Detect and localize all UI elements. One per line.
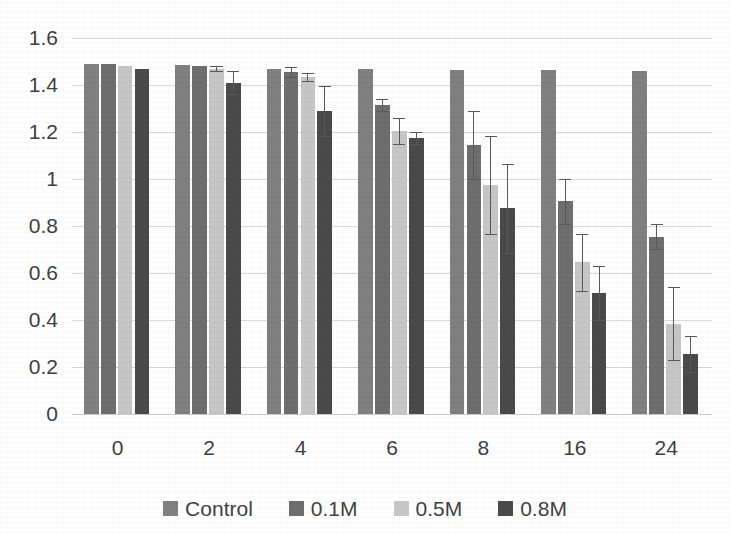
bar-chart: 00.20.40.60.811.21.41.6 024681624 Contro… <box>0 0 730 533</box>
bar <box>558 201 573 414</box>
error-bar <box>409 132 424 144</box>
legend-label: 0.8M <box>520 498 567 519</box>
y-axis-tick-label: 1.6 <box>29 27 58 48</box>
axis-baseline <box>72 414 712 415</box>
error-bar-cap-lower <box>285 77 297 78</box>
error-bar-cap-upper <box>285 67 297 68</box>
x-axis-tick-label: 24 <box>626 437 706 458</box>
x-axis-tick-label: 6 <box>352 437 432 458</box>
error-bar-cap-upper <box>302 73 314 74</box>
error-bar-cap-upper <box>376 99 388 100</box>
error-bar-cap-upper <box>502 164 514 165</box>
error-bar-stem <box>233 71 234 95</box>
bar <box>301 77 316 414</box>
error-bar-cap-lower <box>410 144 422 145</box>
error-bar-cap-lower <box>485 234 497 235</box>
y-axis-tick-label: 0.8 <box>29 215 58 236</box>
error-bar <box>575 234 590 290</box>
error-bar-cap-lower <box>376 111 388 112</box>
error-bar-stem <box>473 111 474 179</box>
error-bar-stem <box>382 99 383 111</box>
y-axis-tick-label: 0.2 <box>29 356 58 377</box>
error-bar-stem <box>599 266 600 320</box>
error-bar <box>558 179 573 224</box>
y-axis-tick-label: 0.6 <box>29 262 58 283</box>
error-bar-cap-lower <box>302 81 314 82</box>
error-bar-cap-lower <box>502 253 514 254</box>
error-bar-cap-lower <box>593 320 605 321</box>
bar <box>267 69 282 414</box>
error-bar <box>592 266 607 320</box>
error-bar-cap-upper <box>319 86 331 87</box>
legend-item[interactable]: 0.8M <box>498 498 567 519</box>
legend-item[interactable]: Control <box>163 498 253 519</box>
bar <box>135 69 150 414</box>
legend-item[interactable]: 0.5M <box>394 498 463 519</box>
error-bar-cap-lower <box>651 249 663 250</box>
error-bar-stem <box>656 224 657 250</box>
x-axis-tick-label: 2 <box>169 437 249 458</box>
legend-label: 0.1M <box>311 498 358 519</box>
error-bar-cap-upper <box>210 66 222 67</box>
bar <box>649 237 664 414</box>
error-bar-cap-lower <box>559 224 571 225</box>
bar <box>175 65 190 414</box>
error-bar-stem <box>565 179 566 224</box>
error-bar-cap-upper <box>559 179 571 180</box>
error-bar-stem <box>690 336 691 371</box>
legend-item[interactable]: 0.1M <box>289 498 358 519</box>
legend-swatch-icon <box>163 501 178 516</box>
bar <box>632 71 647 414</box>
bar <box>358 69 373 414</box>
error-bar-stem <box>673 287 674 360</box>
legend-swatch-icon <box>289 501 304 516</box>
error-bar-stem <box>307 73 308 81</box>
gridline <box>72 38 712 39</box>
error-bar <box>683 336 698 371</box>
error-bar <box>467 111 482 179</box>
error-bar-cap-upper <box>227 71 239 72</box>
error-bar <box>649 224 664 250</box>
error-bar-cap-upper <box>685 336 697 337</box>
error-bar-cap-upper <box>485 136 497 137</box>
bar <box>450 70 465 414</box>
error-bar <box>392 118 407 144</box>
error-bar-cap-lower <box>227 94 239 95</box>
error-bar-stem <box>399 118 400 144</box>
error-bar-cap-upper <box>651 224 663 225</box>
bar <box>409 138 424 414</box>
y-axis-tick-label: 0 <box>46 403 58 424</box>
legend-swatch-icon <box>498 501 513 516</box>
bar <box>192 66 207 414</box>
error-bar-cap-upper <box>668 287 680 288</box>
bar <box>392 131 407 414</box>
error-bar <box>483 136 498 235</box>
error-bar-cap-lower <box>319 136 331 137</box>
error-bar <box>209 66 224 72</box>
error-bar <box>284 67 299 76</box>
error-bar-cap-upper <box>393 118 405 119</box>
legend-label: Control <box>185 498 253 519</box>
x-axis-tick-label: 4 <box>261 437 341 458</box>
error-bar-stem <box>416 132 417 144</box>
error-bar-stem <box>324 86 325 135</box>
bar <box>375 105 390 414</box>
error-bar-stem <box>507 164 508 253</box>
y-axis-tick-label: 1 <box>46 168 58 189</box>
gridline <box>72 85 712 86</box>
bar <box>541 70 556 414</box>
error-bar <box>666 287 681 360</box>
legend-label: 0.5M <box>416 498 463 519</box>
error-bar-cap-lower <box>393 144 405 145</box>
error-bar <box>301 73 316 81</box>
bar <box>101 64 116 414</box>
x-axis-tick-label: 16 <box>535 437 615 458</box>
error-bar-cap-lower <box>668 360 680 361</box>
error-bar-cap-upper <box>576 234 588 235</box>
error-bar-cap-lower <box>468 179 480 180</box>
x-axis-tick-label: 0 <box>78 437 158 458</box>
bar <box>467 145 482 414</box>
bar <box>209 69 224 414</box>
error-bar-cap-lower <box>576 291 588 292</box>
error-bar-stem <box>291 67 292 76</box>
